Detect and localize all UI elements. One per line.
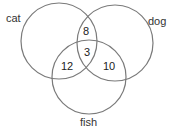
cat-fish-region-value: 12 [61, 60, 73, 72]
cat-label: cat [6, 12, 21, 24]
venn-diagram: cat dog fish 8 3 12 10 [0, 0, 175, 130]
cat-dog-region-value: 8 [83, 25, 89, 37]
fish-label: fish [80, 116, 97, 128]
dog-fish-region-value: 10 [103, 60, 115, 72]
dog-label: dog [148, 15, 166, 27]
all-sets-region-value: 3 [84, 46, 90, 58]
